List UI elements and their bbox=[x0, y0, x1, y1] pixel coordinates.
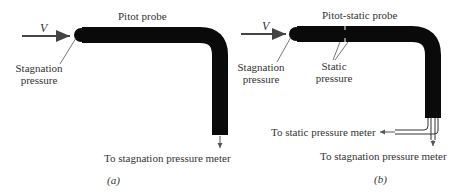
panel-a-title: Pitot probe bbox=[118, 10, 167, 22]
meter-label-a: To stagnation pressure meter bbox=[104, 152, 231, 164]
diagram-canvas bbox=[0, 0, 467, 193]
stagnation-meter-label-b: To stagnation pressure meter bbox=[320, 150, 447, 162]
stagnation-label-a: Stagnation pressure bbox=[10, 62, 68, 86]
static-label-b-line2: pressure bbox=[312, 72, 356, 84]
velocity-symbol-b: V bbox=[262, 20, 269, 32]
static-meter-label-b: To static pressure meter bbox=[271, 126, 376, 138]
stagnation-leader-a bbox=[60, 38, 76, 64]
caption-b: (b) bbox=[374, 173, 387, 185]
stagnation-label-a-line1: Stagnation bbox=[10, 62, 68, 74]
stagnation-label-a-line2: pressure bbox=[10, 74, 68, 86]
stagnation-leader-b bbox=[277, 37, 291, 62]
stagnation-label-b: Stagnation pressure bbox=[232, 61, 290, 85]
static-leader-b2 bbox=[335, 42, 348, 60]
stagnation-label-b-line2: pressure bbox=[232, 73, 290, 85]
pitot-probe-a bbox=[74, 28, 220, 135]
stagnation-label-b-line1: Stagnation bbox=[232, 61, 290, 73]
panel-b-title: Pitot-static probe bbox=[322, 9, 397, 21]
static-label-b-line1: Static bbox=[312, 60, 356, 72]
static-label-b: Static pressure bbox=[312, 60, 356, 84]
velocity-symbol-a: V bbox=[40, 22, 47, 34]
caption-a: (a) bbox=[107, 174, 120, 186]
